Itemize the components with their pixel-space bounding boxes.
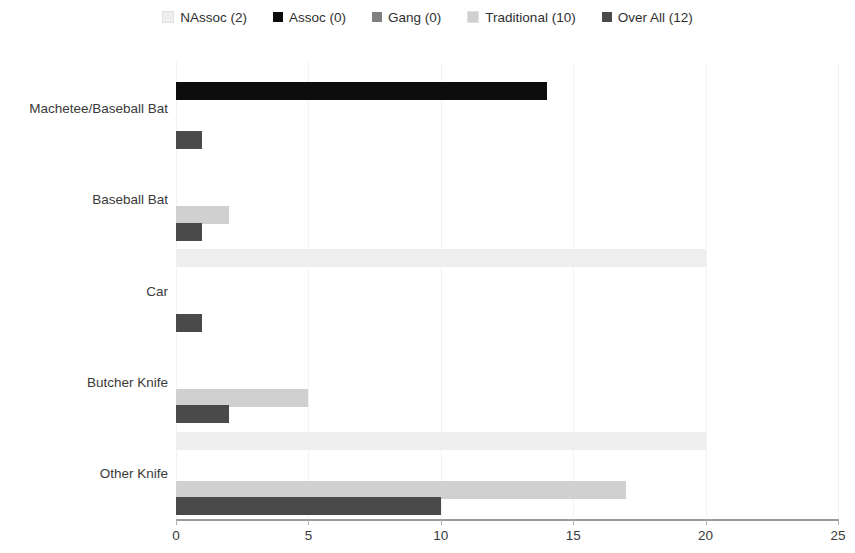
category-label: Machetee/Baseball Bat [0, 100, 168, 115]
legend-item[interactable]: Traditional (10) [467, 10, 575, 25]
legend-label: Gang (0) [388, 10, 441, 25]
x-tick-mark [441, 519, 442, 525]
gridline [308, 62, 309, 519]
x-tick-mark [176, 519, 177, 525]
category-label: Butcher Knife [0, 374, 168, 389]
legend-item[interactable]: NAssoc (2) [162, 10, 247, 25]
bar[interactable] [176, 131, 202, 149]
x-axis-line [176, 519, 838, 521]
x-tick-label: 15 [566, 528, 581, 543]
gridline [441, 62, 442, 519]
x-tick-label: 25 [830, 528, 845, 543]
legend-swatch-icon [162, 11, 174, 23]
gridline [573, 62, 574, 519]
bar[interactable] [176, 82, 547, 100]
x-tick-label: 0 [172, 528, 180, 543]
category-label: Car [0, 283, 168, 298]
chart-legend: NAssoc (2)Assoc (0)Gang (0)Traditional (… [0, 6, 855, 28]
legend-label: NAssoc (2) [180, 10, 247, 25]
x-tick-label: 20 [698, 528, 713, 543]
bar[interactable] [176, 389, 308, 407]
legend-swatch-icon [372, 12, 382, 22]
legend-swatch-icon [467, 11, 479, 23]
bar[interactable] [176, 206, 229, 224]
legend-item[interactable]: Assoc (0) [273, 10, 346, 25]
category-label: Other Knife [0, 466, 168, 481]
x-tick-mark [573, 519, 574, 525]
legend-item[interactable]: Over All (12) [602, 10, 693, 25]
x-tick-mark [308, 519, 309, 525]
x-tick-label: 5 [305, 528, 313, 543]
legend-swatch-icon [602, 12, 612, 22]
bar[interactable] [176, 497, 441, 515]
bar[interactable] [176, 405, 229, 423]
x-tick-label: 10 [433, 528, 448, 543]
legend-label: Assoc (0) [289, 10, 346, 25]
legend-label: Traditional (10) [485, 10, 575, 25]
bar[interactable] [176, 249, 706, 267]
bar[interactable] [176, 432, 706, 450]
bar[interactable] [176, 314, 202, 332]
legend-swatch-icon [273, 12, 283, 22]
legend-label: Over All (12) [618, 10, 693, 25]
bar[interactable] [176, 481, 626, 499]
gridline [838, 62, 839, 519]
bar[interactable] [176, 223, 202, 241]
gridline [706, 62, 707, 519]
legend-item[interactable]: Gang (0) [372, 10, 441, 25]
x-tick-mark [838, 519, 839, 525]
chart-plot-area: 0510152025 Machetee/Baseball BatBaseball… [0, 34, 855, 553]
x-tick-mark [706, 519, 707, 525]
category-label: Baseball Bat [0, 192, 168, 207]
